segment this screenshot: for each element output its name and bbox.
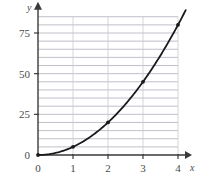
x-tick-label: 3 bbox=[140, 162, 146, 174]
x-tick-label: 0 bbox=[35, 162, 41, 174]
data-point-marker bbox=[141, 80, 145, 84]
x-axis-label: x bbox=[189, 162, 195, 173]
data-point-marker bbox=[36, 153, 40, 157]
data-point-marker bbox=[176, 23, 180, 27]
y-tick-label: 75 bbox=[19, 27, 31, 39]
x-tick-label: 4 bbox=[175, 162, 181, 174]
y-axis-label: y bbox=[26, 2, 32, 13]
x-tick-label: 2 bbox=[105, 162, 111, 174]
chart-figure: 0255075 01234 x y bbox=[0, 0, 199, 178]
y-tick-label: 50 bbox=[19, 68, 31, 80]
data-point-marker bbox=[71, 145, 75, 149]
y-tick-label: 0 bbox=[25, 149, 31, 161]
x-tick-label: 1 bbox=[70, 162, 76, 174]
y-tick-label: 25 bbox=[19, 108, 31, 120]
data-point-marker bbox=[106, 121, 110, 125]
quadratic-curve-plot: 0255075 01234 x y bbox=[0, 0, 199, 178]
